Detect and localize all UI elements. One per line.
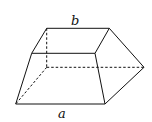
hidden-edge-back-left (16, 67, 47, 104)
frustum-diagram: b a (0, 0, 152, 122)
edge-bottom-right (105, 67, 144, 104)
edge-top-right-slope (109, 28, 144, 67)
label-b: b (71, 13, 79, 28)
top-face (32, 28, 110, 53)
edge-front-left (16, 53, 32, 104)
edge-front-right (95, 53, 105, 104)
label-a: a (58, 106, 66, 121)
